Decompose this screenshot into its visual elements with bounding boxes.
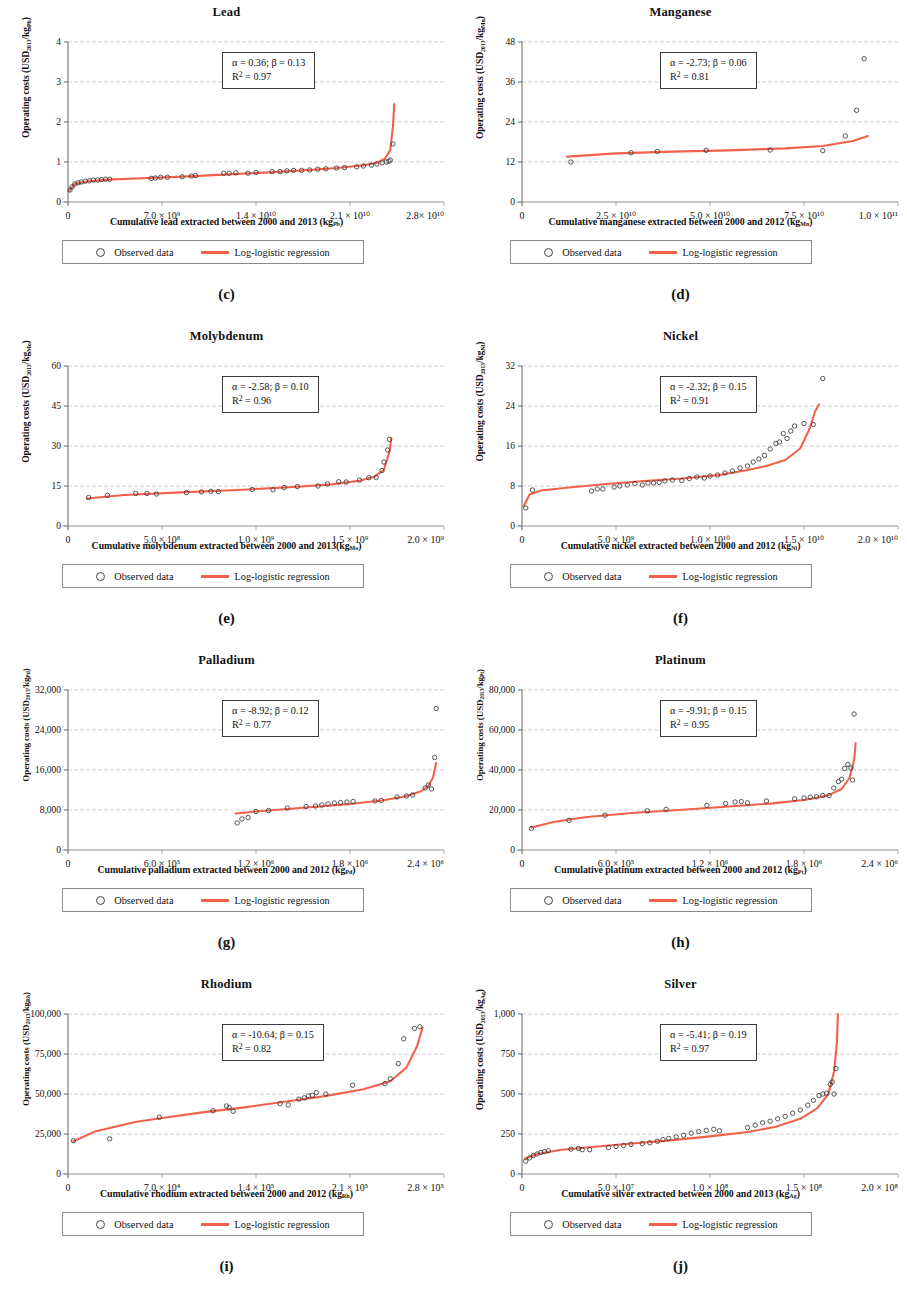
observed-data-marker-icon <box>96 248 105 257</box>
data-point <box>418 1025 422 1029</box>
data-point <box>854 108 858 112</box>
y-tick-label: 0 <box>510 197 515 207</box>
data-point <box>705 803 709 807</box>
regression-line-key-icon <box>201 251 229 254</box>
data-point <box>674 1135 678 1139</box>
y-tick-label: 75,000 <box>35 1049 61 1059</box>
data-point <box>524 506 528 510</box>
regression-line-key-icon <box>649 1223 677 1226</box>
r-squared-label: R2 = 0.81 <box>670 70 747 84</box>
data-point <box>751 460 755 464</box>
data-point <box>775 1117 779 1121</box>
parameters-box: α = -10.64; β = 0.15R2 = 0.82 <box>222 1024 324 1061</box>
chart-legend: Observed dataLog-logistic regression <box>510 240 812 264</box>
y-tick-label: 24,000 <box>35 725 61 735</box>
alpha-beta-label: α = -9.91; β = 0.15 <box>670 704 747 718</box>
data-point <box>681 1133 685 1137</box>
regression-line <box>567 136 868 157</box>
chart-legend: Observed dataLog-logistic regression <box>510 1212 812 1236</box>
observed-data-marker-icon <box>96 1220 105 1229</box>
r-squared-label: R2 = 0.82 <box>232 1042 314 1056</box>
panel-letter: (c) <box>0 286 453 303</box>
parameters-box: α = -5.41; β = 0.19R2 = 0.97 <box>660 1024 757 1061</box>
alpha-beta-label: α = -8.92; β = 0.12 <box>232 704 309 718</box>
data-point <box>798 1108 802 1112</box>
data-point <box>625 483 629 487</box>
y-tick-label: 0 <box>510 845 515 855</box>
panel-letter: (h) <box>454 934 907 951</box>
data-point <box>733 800 737 804</box>
regression-line <box>87 439 392 499</box>
plot-area: Operating costs (USD2013/kgMn)0122436480… <box>454 20 907 232</box>
chart-title: Molybdenum <box>0 328 453 344</box>
plot-area: Operating costs (USD2013/kgPb)0123407.0 … <box>0 20 453 232</box>
data-point <box>402 1037 406 1041</box>
x-axis-title: Cumulative silver extracted between 2000… <box>454 1188 907 1199</box>
data-point <box>852 712 856 716</box>
data-point <box>757 457 761 461</box>
chart-title: Lead <box>0 4 453 20</box>
x-axis-title: Cumulative nickel extracted between 2000… <box>454 540 907 551</box>
y-tick-label: 48 <box>506 37 516 47</box>
y-tick-label: 24 <box>506 117 516 127</box>
data-point <box>246 815 250 819</box>
chart-panel-nickel: NickelOperating costs (USD2013/kgNi)0816… <box>454 324 907 648</box>
x-axis-title: Cumulative rhodium extracted between 200… <box>0 1188 453 1199</box>
panel-letter: (g) <box>0 934 453 951</box>
data-point <box>745 464 749 468</box>
data-point <box>745 1125 749 1129</box>
y-tick-label: 0 <box>56 197 61 207</box>
legend-label-regression: Log-logistic regression <box>234 1219 329 1230</box>
data-point <box>832 786 836 790</box>
y-tick-label: 30 <box>52 441 62 451</box>
x-axis-title: Cumulative palladium extracted between 2… <box>0 864 453 875</box>
data-point <box>704 1128 708 1132</box>
observed-data-marker-icon <box>544 896 553 905</box>
data-point <box>791 1111 795 1115</box>
y-tick-label: 16,000 <box>35 765 61 775</box>
data-point <box>434 706 438 710</box>
legend-label-regression: Log-logistic regression <box>682 247 777 258</box>
regression-line-key-icon <box>649 575 677 578</box>
alpha-beta-label: α = -2.73; β = 0.06 <box>670 56 747 70</box>
data-point <box>792 424 796 428</box>
y-tick-label: 750 <box>501 1049 516 1059</box>
regression-line <box>531 743 855 828</box>
r-squared-label: R2 = 0.97 <box>670 1042 747 1056</box>
r-squared-label: R2 = 0.91 <box>670 394 747 408</box>
regression-line-key-icon <box>201 899 229 902</box>
legend-label-observed: Observed data <box>562 571 621 582</box>
data-point <box>651 481 655 485</box>
chart-legend: Observed dataLog-logistic regression <box>62 1212 364 1236</box>
y-tick-label: 2 <box>56 117 61 127</box>
regression-line-key-icon <box>201 575 229 578</box>
data-point <box>806 1103 810 1107</box>
data-point <box>811 1098 815 1102</box>
observed-data-marker-icon <box>544 248 553 257</box>
legend-label-regression: Log-logistic regression <box>234 571 329 582</box>
y-tick-label: 8,000 <box>40 805 62 815</box>
chart-title: Palladium <box>0 652 453 668</box>
data-point <box>777 440 781 444</box>
y-tick-label: 1 <box>56 157 61 167</box>
panel-letter: (f) <box>454 610 907 627</box>
chart-legend: Observed dataLog-logistic regression <box>62 240 364 264</box>
observed-data-marker-icon <box>96 572 105 581</box>
chart-legend: Observed dataLog-logistic regression <box>510 888 812 912</box>
regression-line-key-icon <box>649 251 677 254</box>
observed-data-marker-icon <box>544 572 553 581</box>
y-tick-label: 45 <box>52 401 62 411</box>
data-point <box>530 488 534 492</box>
data-point <box>843 134 847 138</box>
r-squared-label: R2 = 0.96 <box>232 394 309 408</box>
y-tick-label: 4 <box>56 37 61 47</box>
parameters-box: α = 0.36; β = 0.13R2 = 0.97 <box>222 52 315 89</box>
data-point <box>697 1129 701 1133</box>
chart-title: Nickel <box>454 328 907 344</box>
data-point <box>839 777 843 781</box>
y-tick-label: 0 <box>56 521 61 531</box>
data-point <box>640 483 644 487</box>
data-point <box>432 755 436 759</box>
data-point <box>821 376 825 380</box>
regression-line-key-icon <box>201 1223 229 1226</box>
